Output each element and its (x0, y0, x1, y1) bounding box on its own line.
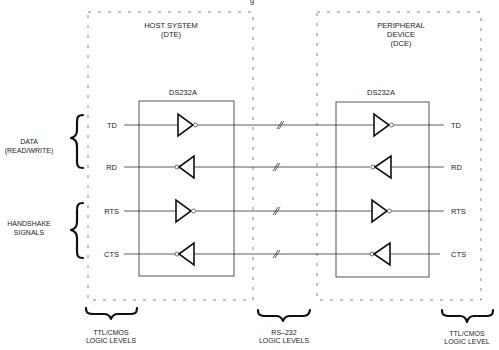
handshake-group-label-line1: HANDSHAKE (7, 220, 51, 227)
signal-row-td: TD TD (107, 114, 462, 136)
left-curly-brace-icon (71, 115, 83, 168)
inverter-bubble-icon (390, 123, 394, 127)
inverter-bubble-icon (388, 209, 392, 213)
left-chip-label: DS232A (169, 88, 197, 97)
right-signal-label-rd: RD (451, 163, 462, 172)
data-group-label-line1: DATA (20, 138, 38, 145)
driver-icon (372, 200, 387, 222)
left-level-label-line2: LOGIC LEVELS (86, 337, 137, 344)
peripheral-title-line1: PERIPHERAL (377, 21, 425, 30)
signal-row-rd: RD RD (106, 156, 462, 178)
inverter-bubble-icon (194, 123, 198, 127)
receiver-icon (374, 243, 390, 265)
right-signal-label-td: TD (451, 121, 462, 130)
driver-icon (374, 114, 389, 136)
left-signal-label-rd: RD (106, 163, 117, 172)
rs232-interface-diagram: g HOST SYSTEM (DTE) PERIPHERAL DEVICE (D… (0, 0, 499, 350)
data-group: DATA (READ/WRITE) (5, 115, 83, 168)
receiver-icon (179, 243, 194, 265)
bottom-curly-brace-icon (86, 308, 137, 319)
driver-icon (176, 200, 191, 222)
signal-row-cts: CTS CTS (104, 243, 466, 265)
peripheral-title-line3: (DCE) (391, 39, 412, 48)
receiver-icon (179, 156, 194, 178)
left-level-label-line1: TTL/CMOS (93, 329, 129, 336)
handshake-group-label-line2: SIGNALS (14, 229, 45, 236)
signal-row-rts: RTS RTS (104, 200, 466, 222)
bottom-curly-brace-icon (442, 310, 493, 322)
receiver-icon (375, 156, 391, 178)
left-signal-label-td: TD (107, 121, 118, 130)
right-level-label-line2: LOGIC LEVEL (444, 338, 490, 345)
left-logic-level: TTL/CMOS LOGIC LEVELS (86, 308, 137, 344)
right-level-label-line1: TTL/CMOS (449, 330, 485, 337)
peripheral-title-line2: DEVICE (387, 30, 415, 39)
inverter-bubble-icon (192, 209, 196, 213)
host-title-line2: (DTE) (161, 30, 181, 39)
middle-level-label-line2: LOGIC LEVELS (259, 337, 310, 344)
data-group-label-line2: (READ/WRITE) (5, 147, 54, 155)
top-cut-text: g (250, 0, 254, 5)
bottom-curly-brace-icon (258, 310, 310, 321)
right-chip-label: DS232A (367, 88, 395, 97)
host-title-line1: HOST SYSTEM (144, 21, 198, 30)
left-signal-label-cts: CTS (104, 250, 119, 259)
right-logic-level: TTL/CMOS LOGIC LEVEL (442, 310, 493, 345)
left-signal-label-rts: RTS (104, 207, 119, 216)
left-curly-brace-icon (71, 203, 83, 258)
right-signal-label-cts: CTS (451, 250, 466, 259)
driver-icon (178, 114, 193, 136)
middle-logic-level: RS–232 LOGIC LEVELS (258, 310, 310, 344)
middle-level-label-line1: RS–232 (271, 329, 296, 336)
handshake-group: HANDSHAKE SIGNALS (7, 203, 83, 258)
right-signal-label-rts: RTS (451, 207, 466, 216)
